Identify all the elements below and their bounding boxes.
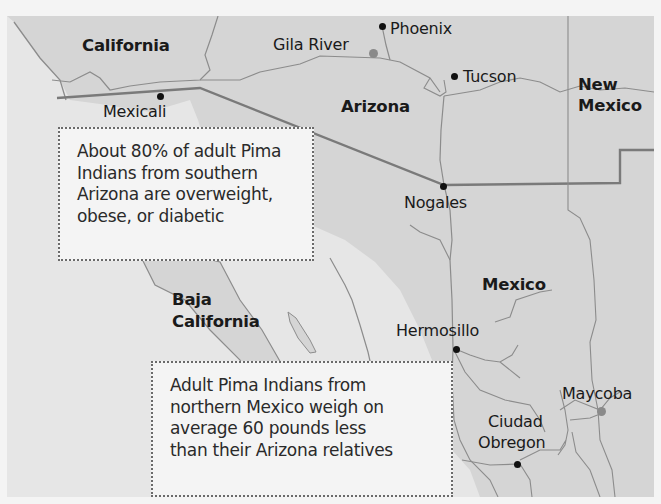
label-mexico: Mexico — [482, 275, 546, 294]
label-ciudad-obregon-line1: Ciudad — [478, 411, 546, 432]
label-tucson: Tucson — [463, 67, 516, 86]
label-hermosillo: Hermosillo — [396, 321, 479, 340]
callout-arizona-line-3: Arizona are overweight, — [77, 184, 312, 206]
label-phoenix: Phoenix — [390, 19, 452, 38]
callout-arizona-line-1: About 80% of adult Pima — [77, 141, 312, 163]
marker-gila-river[interactable] — [369, 49, 378, 58]
marker-mexicali[interactable] — [157, 93, 164, 100]
label-ciudad-obregon: Ciudad Obregon — [478, 411, 546, 453]
label-new-mexico: New Mexico — [578, 74, 642, 116]
label-arizona: Arizona — [341, 97, 410, 116]
label-baja-line2: California — [172, 311, 260, 333]
marker-phoenix[interactable] — [379, 23, 386, 30]
label-mexicali: Mexicali — [103, 102, 166, 121]
label-new-mexico-line1: New — [578, 74, 642, 95]
callout-mexico-line-1: Adult Pima Indians from — [170, 375, 451, 397]
callout-mexico-line-4: than their Arizona relatives — [170, 440, 451, 462]
label-maycoba: Maycoba — [562, 384, 632, 403]
label-new-mexico-line2: Mexico — [578, 95, 642, 116]
map: California Arizona New Mexico Baja Calif… — [7, 16, 654, 497]
callout-mexico-stats: Adult Pima Indians from northern Mexico … — [151, 361, 453, 497]
callout-arizona-stats: About 80% of adult Pima Indians from sou… — [58, 127, 314, 261]
callout-mexico-line-2: northern Mexico weigh on — [170, 397, 451, 419]
island — [288, 312, 316, 353]
marker-hermosillo[interactable] — [453, 346, 460, 353]
callout-arizona-line-2: Indians from southern — [77, 163, 312, 185]
callout-mexico-line-3: average 60 pounds less — [170, 418, 451, 440]
label-california: California — [82, 36, 170, 55]
label-gila-river: Gila River — [273, 35, 349, 54]
marker-tucson[interactable] — [451, 73, 458, 80]
label-baja-line1: Baja — [172, 289, 260, 311]
marker-nogales[interactable] — [440, 183, 447, 190]
marker-ciudad-obregon[interactable] — [514, 461, 521, 468]
label-baja-california: Baja California — [172, 289, 260, 333]
callout-arizona-line-4: obese, or diabetic — [77, 206, 312, 228]
marker-maycoba[interactable] — [597, 407, 606, 416]
label-ciudad-obregon-line2: Obregon — [478, 432, 546, 453]
label-nogales: Nogales — [404, 193, 467, 212]
